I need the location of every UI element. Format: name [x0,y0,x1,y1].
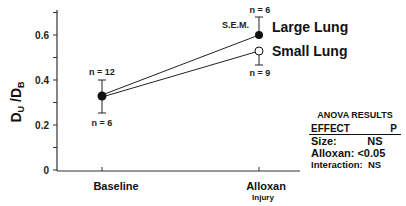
large-lung-line [102,35,259,95]
anova-header-effect: EFFECT [311,123,350,134]
sem-label: S.E.M. [222,20,249,30]
anova-results-table: ANOVA RESULTS EFFECT P Size: NS Alloxan:… [309,110,401,171]
y-tick-label-0.6: 0.6 [35,30,49,41]
alloxan-n-bottom: n = 9 [250,68,271,78]
small-lung-line [102,51,259,97]
anova-header: EFFECT P [309,123,401,135]
anova-title: ANOVA RESULTS [309,110,401,120]
y-axis-label: DU /DB [8,81,26,123]
anova-row-alloxan: Alloxan: <0.05 [309,147,401,159]
baseline-n-top: n = 12 [89,67,115,77]
x-label-alloxan: Alloxan [246,180,286,192]
anova-row-size: Size: NS [309,135,401,147]
y-tick-label-0.2: 0.2 [35,120,49,131]
alloxan-n-top: n = 6 [250,5,271,15]
baseline-point [98,92,107,101]
legend-small-lung: Small Lung [272,43,347,59]
svg-text:DU /DB: DU /DB [8,81,26,123]
small-lung-point [255,47,263,55]
y-tick-label-0.4: 0.4 [35,75,49,86]
y-tick-label-0: 0 [43,165,49,176]
large-lung-point [255,31,263,39]
x-sublabel-injury: Injury [252,193,274,202]
anova-header-p: P [390,123,397,134]
chart-svg: 0 0.2 0.4 0.6 DU /DB n = 12 n = 6 n = 6 … [0,0,406,206]
baseline-n-bottom: n = 6 [92,118,113,128]
legend-large-lung: Large Lung [272,19,348,35]
x-label-baseline: Baseline [93,180,138,192]
anova-row-interaction: Interaction: NS [309,159,401,171]
